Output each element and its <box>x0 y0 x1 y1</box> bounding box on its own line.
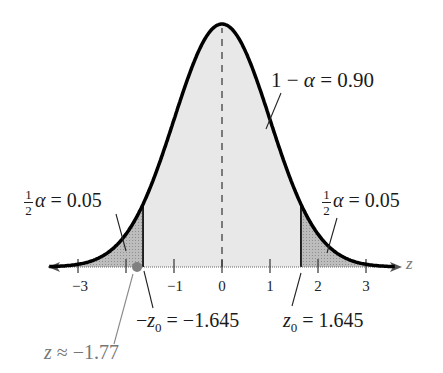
center-area-label: 1 − α = 0.90 <box>271 70 374 91</box>
axis-variable-label: z <box>406 255 413 272</box>
right-tail-label: 12α = 0.05 <box>322 188 400 217</box>
neg-critical-value-label: −z0 = −1.645 <box>136 310 239 334</box>
tick-label: 0 <box>218 278 226 295</box>
pos-critical-value-label: z0 = 1.645 <box>283 310 364 334</box>
tick-label: 3 <box>362 278 370 295</box>
tick-label: −1 <box>167 278 183 295</box>
test-statistic-point <box>132 262 142 272</box>
left-tail-label: 12α = 0.05 <box>24 188 102 217</box>
tick-label: −3 <box>72 278 88 295</box>
tick-label: 2 <box>314 278 322 295</box>
tick-label: 1 <box>266 278 274 295</box>
test-statistic-label: z ≈ −1.77 <box>44 342 119 362</box>
